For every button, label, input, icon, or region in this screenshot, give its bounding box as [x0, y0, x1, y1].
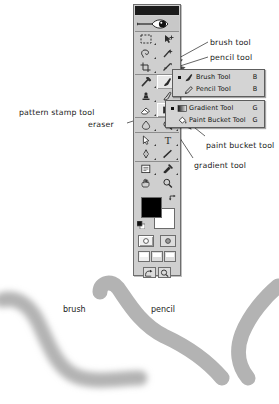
tool-row[interactable]	[135, 147, 179, 161]
tool-magic-wand[interactable]	[157, 46, 179, 60]
jump-to-preview-icon[interactable]	[158, 267, 171, 278]
flyout-label: Paint Bucket Tool	[188, 116, 249, 124]
pencil-icon	[183, 85, 195, 94]
flyout-shortcut: B	[249, 85, 261, 93]
tool-notes[interactable]	[135, 162, 157, 176]
tool-row[interactable]	[135, 32, 179, 46]
flyout-shortcut: B	[249, 73, 261, 81]
flyout-triangle-icon	[154, 129, 156, 131]
paint-bucket-icon	[176, 116, 188, 125]
flyout-triangle-icon	[176, 144, 178, 146]
flyout-triangle-icon	[154, 43, 156, 45]
flyout-item-pencil-tool[interactable]: Pencil Tool B	[173, 83, 264, 95]
screenshot-root: brush pencil brush tool penci	[0, 0, 279, 404]
leader-pencil-tool	[180, 57, 208, 66]
brush-tool-flyout[interactable]: Brush Tool B Pencil Tool B	[172, 69, 265, 97]
annotation-eraser: eraser	[88, 120, 114, 129]
flyout-triangle-icon	[154, 100, 156, 102]
active-tool-bullet	[176, 76, 183, 79]
tool-healing-brush[interactable]	[135, 75, 157, 89]
tool-zoom[interactable]	[157, 176, 179, 190]
tool-pen[interactable]	[135, 147, 157, 161]
flyout-item-brush-tool[interactable]: Brush Tool B	[173, 71, 264, 83]
tool-blur[interactable]	[135, 118, 157, 132]
toolbox-title-bar[interactable]	[135, 6, 179, 15]
tool-marquee[interactable]	[135, 32, 157, 46]
photoshop-eye-logo	[135, 16, 179, 32]
swap-colors-icon[interactable]	[169, 194, 177, 202]
annotation-gradient-tool: gradient tool	[194, 161, 246, 170]
flyout-shortcut: G	[249, 116, 261, 124]
svg-text:T: T	[165, 135, 172, 145]
flyout-shortcut: G	[249, 104, 261, 112]
full-screen-mode-button[interactable]	[164, 251, 176, 262]
tool-clone-stamp[interactable]	[135, 89, 157, 103]
screen-mode-buttons[interactable]	[135, 251, 179, 265]
flyout-triangle-icon	[154, 144, 156, 146]
standard-mask-mode-button[interactable]	[135, 233, 157, 249]
standard-mask-icon	[138, 235, 154, 247]
tool-row[interactable]	[135, 46, 179, 60]
tool-eyedropper[interactable]	[157, 162, 179, 176]
flyout-item-gradient-tool[interactable]: Gradient Tool G	[166, 102, 264, 114]
foreground-color-swatch[interactable]	[141, 197, 162, 218]
brush-icon	[183, 73, 195, 82]
flyout-label: Pencil Tool	[195, 85, 249, 93]
tool-eraser[interactable]	[135, 103, 157, 117]
tool-row[interactable]: T	[135, 133, 179, 147]
tool-hand[interactable]	[135, 176, 157, 190]
annotation-brush-tool: brush tool	[210, 38, 251, 47]
jump-to-buttons[interactable]	[135, 266, 179, 279]
flyout-triangle-icon	[154, 86, 156, 88]
quick-mask-icon	[160, 235, 176, 247]
annotation-paint-bucket-tool: paint bucket tool	[206, 141, 274, 150]
flyout-triangle-icon	[154, 71, 156, 73]
flyout-triangle-icon	[154, 57, 156, 59]
tool-row[interactable]	[135, 176, 179, 190]
default-colors-icon[interactable]	[137, 221, 145, 229]
flyout-label: Gradient Tool	[188, 104, 249, 112]
toolbox-palette[interactable]: T	[133, 4, 181, 276]
flyout-triangle-icon	[154, 158, 156, 160]
quick-mask-mode-button[interactable]	[157, 233, 179, 249]
standard-screen-mode-button[interactable]	[138, 251, 150, 262]
flyout-triangle-icon	[176, 129, 178, 131]
gradient-icon	[176, 104, 188, 113]
flyout-triangle-icon	[154, 173, 156, 175]
tool-crop[interactable]	[135, 60, 157, 74]
active-tool-bullet	[169, 107, 176, 110]
flyout-item-paint-bucket-tool[interactable]: Paint Bucket Tool G	[166, 114, 264, 126]
tool-type[interactable]: T	[157, 133, 179, 147]
flyout-triangle-icon	[154, 114, 156, 116]
flyout-triangle-icon	[176, 173, 178, 175]
flyout-triangle-icon	[176, 158, 178, 160]
tool-line-shape[interactable]	[157, 147, 179, 161]
tool-path-selection[interactable]	[135, 133, 157, 147]
tool-lasso[interactable]	[135, 46, 157, 60]
tool-row[interactable]	[135, 162, 179, 176]
annotation-pattern-stamp-tool: pattern stamp tool	[19, 108, 95, 117]
annotation-pencil-tool: pencil tool	[210, 53, 252, 62]
flyout-label: Brush Tool	[195, 73, 249, 81]
leader-brush-tool	[177, 42, 208, 59]
mask-mode-buttons[interactable]	[135, 233, 179, 249]
full-screen-with-menubar-button[interactable]	[151, 251, 163, 262]
jump-to-imageready-icon[interactable]	[143, 267, 156, 278]
tool-move[interactable]	[157, 32, 179, 46]
gradient-tool-flyout[interactable]: Gradient Tool G Paint Bucket Tool G	[165, 100, 265, 128]
color-swatches[interactable]	[135, 193, 179, 231]
